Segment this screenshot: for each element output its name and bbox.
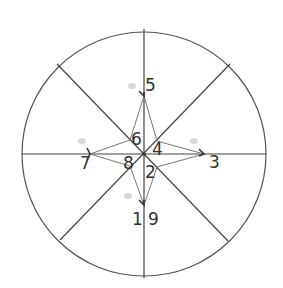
label-3: 3 [209,152,220,172]
arrow-north-icon [139,91,144,96]
label-1: 1 [132,209,143,229]
label-5: 5 [145,75,156,95]
label-2: 2 [145,162,156,182]
faint-mark [124,193,132,199]
arrow-south-icon [139,200,144,205]
arrowheads [87,91,204,205]
faint-mark [78,138,86,144]
faint-mark [190,138,198,144]
label-4: 4 [152,139,163,159]
label-9: 9 [148,209,159,229]
faint-mark [128,83,136,89]
center-dot [142,152,146,156]
label-6: 6 [131,129,142,149]
compass-diagram: 564378219 [0,0,283,288]
label-8: 8 [123,153,134,173]
label-7: 7 [80,153,91,173]
number-labels: 564378219 [80,75,220,229]
